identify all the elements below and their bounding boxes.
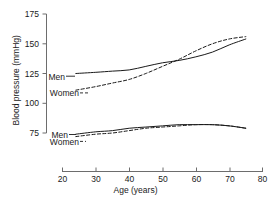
x-tick-label-80: 80 — [249, 175, 272, 184]
series-line-men-diastolic — [76, 125, 246, 135]
series-line-men-systolic — [76, 39, 246, 74]
series-label-women-systolic: Women — [22, 89, 79, 98]
series-label-women-diastolic: Women — [22, 138, 79, 147]
label-leader-lines — [66, 76, 88, 141]
x-tick-label-60: 60 — [183, 175, 211, 184]
x-tick-label-20: 20 — [49, 175, 77, 184]
x-tick-label-30: 30 — [82, 175, 110, 184]
x-tick-label-40: 40 — [116, 175, 144, 184]
x-tick-label-70: 70 — [216, 175, 244, 184]
y-axis-title: Blood pressure (mmHg) — [12, 20, 21, 140]
y-tick-label-175: 175 — [12, 10, 39, 19]
x-axis-title: Age (years) — [0, 186, 271, 195]
x-tick-label-50: 50 — [149, 175, 177, 184]
x-axis — [62, 168, 263, 172]
blood-pressure-chart: 175 150 125 100 75 20 30 40 50 60 70 80 … — [0, 0, 271, 204]
data-series-layer — [76, 37, 246, 137]
series-label-men-systolic: Men — [22, 73, 65, 82]
